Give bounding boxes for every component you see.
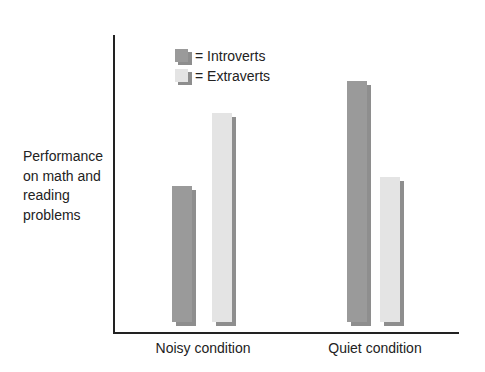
y-axis-label-line: on math and: [23, 167, 113, 187]
legend-swatch-extraverts: [175, 69, 189, 83]
legend-label: = Introverts: [195, 46, 265, 66]
legend-label: = Extraverts: [195, 66, 270, 86]
y-axis-label-line: problems: [23, 206, 113, 226]
x-tick-noisy: Noisy condition: [156, 340, 251, 356]
legend-swatch-introverts: [175, 49, 189, 63]
y-axis: [113, 35, 115, 334]
bar-introverts-noisy: [172, 186, 196, 326]
y-axis-label-line: reading: [23, 186, 113, 206]
bar-extraverts-quiet: [380, 177, 404, 326]
bar-introverts-quiet: [347, 81, 371, 326]
y-axis-label-line: Performance: [23, 147, 113, 167]
y-axis-label: Performance on math and reading problems: [23, 147, 113, 225]
x-tick-quiet: Quiet condition: [328, 340, 421, 356]
bar-extraverts-noisy: [212, 113, 236, 326]
x-axis: [113, 332, 459, 334]
